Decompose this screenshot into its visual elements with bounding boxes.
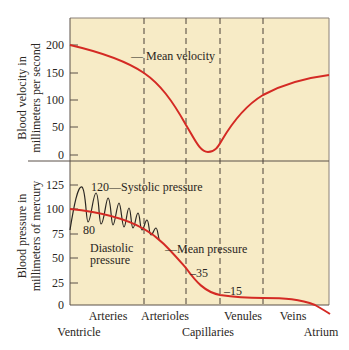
velocity-panel [70, 18, 329, 161]
velocity-ylabel-line2: millimeters per second [29, 43, 43, 152]
velocity-tick-150: 150 [46, 66, 64, 80]
blood-flow-chart: 200 150 100 50 0 125 100 75 50 25 0 Bloo… [0, 0, 349, 350]
x-label-arteries: Arteries [89, 309, 128, 323]
mean-pressure-label: —Mean pressure [164, 242, 247, 256]
velocity-ylabel-line1: Blood velocity in [15, 56, 29, 139]
pressure-ylabel-line1: Blood pressure in [15, 194, 29, 279]
pressure-tick-50: 50 [52, 251, 64, 265]
x-label-ventricle: Ventricle [57, 325, 100, 339]
pressure-tick-0: 0 [58, 298, 64, 312]
x-label-atrium: Atrium [304, 325, 339, 339]
pressure-tick-125: 125 [46, 178, 64, 192]
pressure-ylabel-line2: millimeters of mercury [29, 181, 43, 292]
velocity-tick-100: 100 [46, 93, 64, 107]
pressure-35-label: –35 [189, 266, 208, 280]
pressure-tick-100: 100 [46, 202, 64, 216]
diastolic-label-line2: pressure [90, 253, 130, 267]
x-label-veins: Veins [280, 309, 307, 323]
velocity-tick-0: 0 [58, 148, 64, 162]
pressure-15-label: –15 [223, 284, 242, 298]
velocity-tick-50: 50 [52, 120, 64, 134]
x-label-capillaries: Capillaries [182, 325, 234, 339]
velocity-tick-200: 200 [46, 38, 64, 52]
x-label-arterioles: Arterioles [141, 309, 189, 323]
pressure-tick-75: 75 [52, 227, 64, 241]
mean-velocity-label: — Mean velocity [130, 49, 215, 63]
pressure-tick-25: 25 [52, 276, 64, 290]
systolic-label: 120—Systolic pressure [91, 180, 203, 194]
x-label-venules: Venules [224, 309, 262, 323]
diastolic-80-label: 80 [83, 223, 95, 237]
